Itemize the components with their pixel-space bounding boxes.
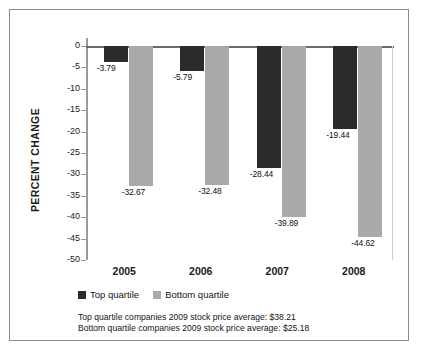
y-tick-label: 0 xyxy=(46,41,80,50)
y-tick-label: -25 xyxy=(46,148,80,157)
y-tick-label: -45 xyxy=(46,234,80,243)
bar-value-label: -28.44 xyxy=(250,169,274,179)
y-tick-mark xyxy=(81,196,86,197)
y-tick-label: -10 xyxy=(46,84,80,93)
bar-value-label: -32.48 xyxy=(198,186,222,196)
y-axis-tick-labels: 0-5-10-15-20-25-30-35-40-45-50 xyxy=(42,38,80,260)
bar-value-label: -5.79 xyxy=(173,72,192,82)
y-tick-mark xyxy=(81,217,86,218)
y-tick-mark xyxy=(81,174,86,175)
y-tick-mark xyxy=(81,89,86,90)
x-tick-label-2007: 2007 xyxy=(239,264,316,278)
bar-top-quartile-2005 xyxy=(104,46,128,62)
legend-item-top-quartile: Top quartile xyxy=(78,290,139,300)
y-tick-mark xyxy=(81,67,86,68)
footnote-line-1: Top quartile companies 2009 stock price … xyxy=(78,312,378,323)
bar-value-label: -44.62 xyxy=(351,238,375,248)
bar-value-label: -32.67 xyxy=(122,187,146,197)
bar-group: -5.79-32.48 xyxy=(180,46,229,260)
chart-frame: PERCENT CHANGE 0-5-10-15-20-25-30-35-40-… xyxy=(9,9,409,341)
chart-footnote: Top quartile companies 2009 stock price … xyxy=(78,312,378,334)
y-tick-label: -35 xyxy=(46,191,80,200)
bar-value-label: -19.44 xyxy=(326,130,350,140)
y-tick-mark xyxy=(81,110,86,111)
y-tick-label: -15 xyxy=(46,105,80,114)
y-tick-label: -5 xyxy=(46,62,80,71)
y-tick-mark xyxy=(81,132,86,133)
x-axis-tick-labels: 2005200620072008 xyxy=(86,264,394,280)
bar-bottom-quartile-2008 xyxy=(358,46,382,237)
x-tick-label-2006: 2006 xyxy=(163,264,240,278)
bar-group: -3.79-32.67 xyxy=(104,46,153,260)
y-tick-mark xyxy=(81,239,86,240)
bar-top-quartile-2008 xyxy=(333,46,357,129)
y-tick-label: -30 xyxy=(46,169,80,178)
plot-right-border xyxy=(392,46,393,260)
bar-value-label: -39.89 xyxy=(275,218,299,228)
y-axis-line xyxy=(86,38,88,260)
y-tick-mark xyxy=(81,153,86,154)
y-tick-label: -50 xyxy=(46,255,80,264)
legend-swatch-icon xyxy=(153,291,161,299)
plot-area: -3.79-32.67-5.79-32.48-28.44-39.89-19.44… xyxy=(86,38,394,260)
bar-bottom-quartile-2007 xyxy=(282,46,306,217)
y-tick-mark xyxy=(81,46,86,47)
legend-item-bottom-quartile: Bottom quartile xyxy=(153,290,229,300)
y-tick-label: -20 xyxy=(46,127,80,136)
legend-label: Top quartile xyxy=(90,290,139,300)
bar-top-quartile-2006 xyxy=(180,46,204,71)
bar-top-quartile-2007 xyxy=(257,46,281,168)
y-tick-label: -40 xyxy=(46,212,80,221)
bar-value-label: -3.79 xyxy=(97,63,116,73)
bar-bottom-quartile-2006 xyxy=(205,46,229,185)
chart-legend: Top quartileBottom quartile xyxy=(78,288,229,302)
bar-bottom-quartile-2005 xyxy=(129,46,153,186)
bar-group: -28.44-39.89 xyxy=(257,46,306,260)
legend-label: Bottom quartile xyxy=(165,290,229,300)
y-tick-mark xyxy=(81,260,86,261)
x-tick-label-2008: 2008 xyxy=(316,264,393,278)
legend-swatch-icon xyxy=(78,291,86,299)
x-tick-label-2005: 2005 xyxy=(86,264,163,278)
footnote-line-2: Bottom quartile companies 2009 stock pri… xyxy=(78,323,378,334)
bar-group: -19.44-44.62 xyxy=(333,46,382,260)
